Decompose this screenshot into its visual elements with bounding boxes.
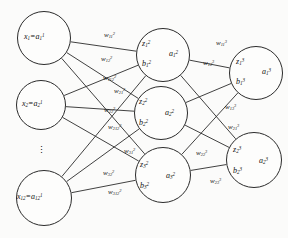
weight-label-w-2-112: w1122	[103, 75, 116, 82]
hidden-node-1-z: z12	[142, 40, 150, 48]
input-node-2-x: x2	[22, 99, 28, 108]
hidden-node-2-b: b22	[139, 119, 148, 127]
weight-label-w-2-11: w112	[104, 32, 115, 39]
edge-in-2-h-2	[66, 107, 134, 112]
hidden-node-2-a: a22	[165, 109, 174, 117]
output-node-2-a: a23	[259, 157, 268, 165]
hidden-node-3	[135, 147, 191, 203]
hidden-node-3-z: z32	[140, 161, 148, 169]
output-node-2	[226, 132, 282, 188]
weight-label-w-2-22: w222	[104, 107, 115, 114]
weight-label-w-3-13: w133	[225, 104, 236, 111]
input-node-12-a: a121	[31, 192, 43, 201]
hidden-node-1	[136, 28, 190, 82]
output-node-2-z: z23	[233, 146, 241, 154]
hidden-node-3-a: a32	[166, 172, 175, 180]
input-node-2-a: a21	[33, 99, 42, 108]
input-node-1-a: a11	[35, 32, 44, 41]
hidden-node-1-a: a12	[169, 50, 178, 58]
weight-label-w-3-23: w233	[210, 178, 221, 185]
output-node-1	[229, 46, 283, 100]
input-node-1-x: x1	[24, 32, 30, 41]
edge-h-2-o-1	[186, 83, 231, 102]
input-node-2-label: x2=a21	[22, 100, 43, 108]
weight-label-w-2-31: w312	[124, 148, 135, 155]
input-node-12-label: x12=a121	[17, 193, 43, 201]
input-node-12-x: x12	[17, 192, 26, 201]
hidden-node-1-b: b12	[142, 60, 151, 68]
weight-label-w-2-12: w122	[101, 56, 112, 63]
neural-network-diagram: x1=a11 x2=a21 ⋮ x12=a121 z12 b12 a12 z22…	[0, 0, 288, 238]
weight-label-w-3-12: w123	[203, 60, 214, 67]
edge-in-1-h-1	[71, 42, 137, 51]
weight-label-w-2-312: w3122	[108, 189, 121, 196]
weight-label-w-3-22: w223	[196, 150, 207, 157]
output-node-1-z: z13	[236, 58, 244, 66]
hidden-node-2-z: z22	[139, 98, 147, 106]
output-node-1-b: b13	[236, 78, 245, 86]
hidden-node-3-b: b32	[140, 182, 149, 190]
output-node-2-b: b23	[233, 167, 242, 175]
weight-label-w-3-21: w213	[228, 124, 239, 131]
edge-h-3-o-2	[191, 165, 227, 171]
weight-label-w-2-32: w322	[103, 170, 114, 177]
weight-label-w-2-21: w212	[114, 88, 125, 95]
input-ellipsis: ⋮	[37, 146, 46, 155]
weight-label-w-3-11: w113	[216, 40, 227, 47]
output-node-1-a: a13	[262, 68, 271, 76]
weight-label-w-2-212: w2122	[108, 124, 121, 131]
edge-in-12-h-3	[71, 180, 135, 192]
input-node-1-label: x1=a11	[24, 33, 45, 41]
hidden-node-2	[134, 86, 188, 140]
